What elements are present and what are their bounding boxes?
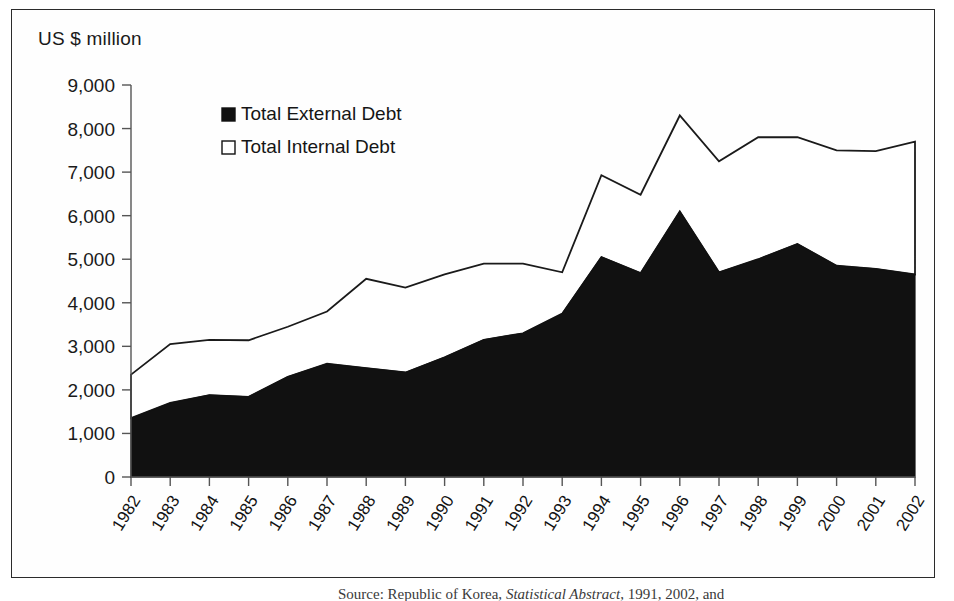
area-series-group [131, 115, 915, 477]
y-axis-tick-label: 3,000 [67, 336, 115, 357]
source-caption-title: Statistical Abstract [506, 586, 620, 601]
x-axis-tick-label: 1991 [461, 492, 497, 534]
source-caption: Source: Republic of Korea, Statistical A… [338, 586, 724, 601]
y-axis-tick-label: 5,000 [67, 249, 115, 270]
x-axis-tick-label: 1994 [579, 492, 615, 534]
x-axis-tick-label: 2002 [892, 492, 928, 534]
legend-label-internal: Total Internal Debt [241, 136, 396, 157]
y-axis-tick-label: 2,000 [67, 380, 115, 401]
legend-marker-external [222, 108, 235, 121]
x-axis-tick-label: 1986 [265, 492, 301, 534]
x-axis-tick-label: 2001 [853, 492, 889, 534]
y-axis-tick-label: 0 [104, 467, 115, 488]
y-axis-tick-label: 7,000 [67, 162, 115, 183]
y-axis-tick-label: 4,000 [67, 293, 115, 314]
source-caption-prefix: Source: Republic of Korea, [338, 586, 506, 601]
x-axis-tick-label: 1989 [383, 492, 419, 534]
x-axis-tick-label: 1999 [775, 492, 811, 534]
y-axis-tick-label: 1,000 [67, 423, 115, 444]
x-axis-tick-label: 1996 [657, 492, 693, 534]
x-axis-tick-label: 1984 [187, 492, 223, 534]
source-caption-suffix: , 1991, 2002, and [620, 586, 724, 601]
y-axis-tick-label: 6,000 [67, 206, 115, 227]
y-axis-tick-label: 8,000 [67, 119, 115, 140]
x-axis-tick-label: 1993 [539, 492, 575, 534]
x-axis-tick-label: 1988 [343, 492, 379, 534]
x-axis-tick-label: 1982 [108, 492, 144, 534]
x-axis-tick-label: 1997 [696, 492, 732, 534]
x-axis-tick-label: 1998 [735, 492, 771, 534]
x-axis-tick-label: 1985 [226, 492, 262, 534]
legend-label-external: Total External Debt [241, 103, 402, 124]
x-axis-tick-label: 1992 [500, 492, 536, 534]
figure-container: US $ million 01,0002,0003,0004,0005,0006… [0, 0, 954, 601]
x-axis-tick-group: 1982198319841985198619871988198919901991… [108, 477, 928, 534]
x-axis-tick-label: 2000 [814, 492, 850, 534]
legend: Total External DebtTotal Internal Debt [222, 103, 402, 157]
x-axis-tick-label: 1990 [422, 492, 458, 534]
x-axis-tick-label: 1983 [147, 492, 183, 534]
legend-marker-internal [222, 141, 235, 154]
y-axis-tick-group: 01,0002,0003,0004,0005,0006,0007,0008,00… [67, 75, 131, 488]
x-axis-tick-label: 1995 [618, 492, 654, 534]
stacked-area-chart: 01,0002,0003,0004,0005,0006,0007,0008,00… [0, 0, 954, 601]
y-axis-tick-label: 9,000 [67, 75, 115, 96]
x-axis-tick-label: 1987 [304, 492, 340, 534]
